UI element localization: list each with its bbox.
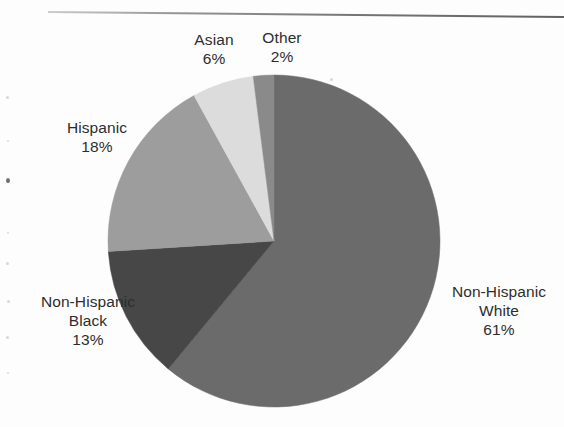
pie-label-non-hispanic-white-line2: White xyxy=(438,301,560,320)
pie-label-hispanic-percent: 18% xyxy=(42,137,152,156)
pie-label-asian-name: Asian xyxy=(194,31,233,48)
scanned-page: Asian 6% Other 2% Hispanic 18% Non-Hispa… xyxy=(0,0,564,427)
pie-label-non-hispanic-white: Non-Hispanic White 61% xyxy=(438,282,560,339)
pie-slice-group xyxy=(108,75,440,407)
pie-label-non-hispanic-white-percent: 61% xyxy=(438,320,560,339)
pie-chart: Asian 6% Other 2% Hispanic 18% Non-Hispa… xyxy=(0,0,564,427)
pie-label-hispanic-name: Hispanic xyxy=(67,119,127,136)
pie-label-non-hispanic-black-line1: Non-Hispanic xyxy=(41,293,135,310)
pie-label-non-hispanic-white-line1: Non-Hispanic xyxy=(452,283,546,300)
pie-label-hispanic: Hispanic 18% xyxy=(42,118,152,156)
pie-label-non-hispanic-black-line2: Black xyxy=(12,311,164,330)
pie-label-other-name: Other xyxy=(262,29,301,46)
pie-label-other: Other 2% xyxy=(246,28,318,66)
pie-label-non-hispanic-black-percent: 13% xyxy=(12,330,164,349)
pie-label-other-percent: 2% xyxy=(246,47,318,66)
pie-label-asian-percent: 6% xyxy=(178,49,250,68)
pie-label-non-hispanic-black: Non-Hispanic Black 13% xyxy=(12,292,164,349)
pie-label-asian: Asian 6% xyxy=(178,30,250,68)
